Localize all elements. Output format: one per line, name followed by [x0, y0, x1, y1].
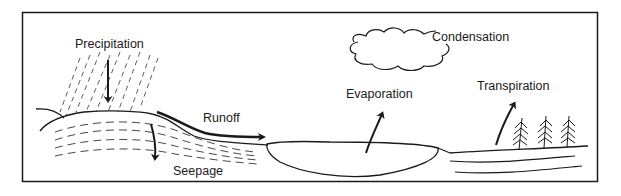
label-runoff: Runoff	[203, 112, 240, 125]
tree-icon	[561, 116, 575, 147]
groundwater-strata	[55, 122, 258, 164]
transpiration-arrow	[496, 104, 514, 145]
water-cycle-diagram	[0, 0, 621, 196]
tree-icon	[538, 116, 552, 148]
tree-icon	[513, 118, 528, 150]
label-evaporation: Evaporation	[346, 88, 413, 101]
right-stratum-2	[455, 166, 582, 173]
lake	[267, 141, 438, 176]
label-precipitation: Precipitation	[75, 38, 144, 51]
label-seepage: Seepage	[173, 165, 223, 178]
left-hill	[36, 109, 64, 118]
label-transpiration: Transpiration	[477, 80, 550, 93]
label-condensation: Condensation	[432, 31, 509, 44]
evaporation-arrow	[366, 114, 382, 153]
right-stratum-1	[450, 156, 575, 162]
